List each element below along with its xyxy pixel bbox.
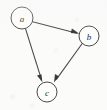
edge-a-to-b [33,22,80,34]
graph-figure: a b c [0,0,107,110]
edge-a-to-b-line [33,22,77,33]
edge-b-to-c-line [56,43,82,79]
node-c-label: c [45,88,49,98]
edge-a-to-c-line [26,29,42,79]
directed-graph-svg: a b c [0,0,107,110]
node-a-label: a [20,14,25,24]
node-b-label: b [87,32,92,42]
edge-a-to-c-arrowhead [37,74,42,82]
edge-a-to-c [26,29,43,83]
node-c[interactable]: c [37,82,57,102]
node-b[interactable]: b [79,26,99,46]
node-a[interactable]: a [11,7,33,29]
edge-a-to-b-arrowhead [71,29,80,34]
edge-b-to-c [54,43,82,82]
edge-b-to-c-arrowhead [54,74,59,83]
